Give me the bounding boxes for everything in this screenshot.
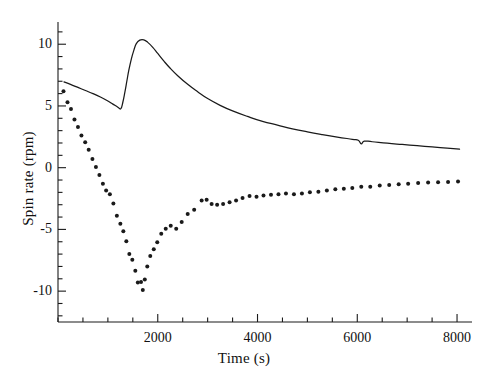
data-point xyxy=(359,185,363,189)
x-axis-title: Time (s) xyxy=(0,350,488,367)
data-point xyxy=(436,180,440,184)
y-tick-label: 0 xyxy=(12,160,52,176)
data-point xyxy=(127,252,131,256)
data-point xyxy=(387,183,391,187)
data-point xyxy=(130,258,134,262)
data-point xyxy=(72,118,76,122)
data-point xyxy=(133,269,137,273)
data-point xyxy=(101,182,105,186)
data-point xyxy=(143,277,147,281)
data-point xyxy=(155,240,159,244)
data-point xyxy=(308,190,312,194)
data-point xyxy=(152,247,156,251)
data-point xyxy=(104,189,108,193)
data-point xyxy=(456,180,460,184)
data-point xyxy=(90,157,94,161)
x-tick-label: 6000 xyxy=(343,330,371,346)
data-point xyxy=(397,182,401,186)
y-tick-label: -5 xyxy=(12,221,52,237)
y-tick-label: -10 xyxy=(12,283,52,299)
data-point xyxy=(65,100,69,104)
data-point xyxy=(426,180,430,184)
data-point xyxy=(276,192,280,196)
data-point xyxy=(115,214,119,218)
data-point xyxy=(378,184,382,188)
data-point xyxy=(406,182,410,186)
data-point xyxy=(118,222,122,226)
data-point xyxy=(83,140,87,144)
data-point xyxy=(262,193,266,197)
data-point xyxy=(300,192,304,196)
data-point xyxy=(234,198,238,202)
data-point xyxy=(368,185,372,189)
y-tick-label: 5 xyxy=(12,98,52,114)
y-tick-label: 10 xyxy=(12,36,52,52)
data-point xyxy=(108,192,112,196)
x-tick-label: 2000 xyxy=(144,330,172,346)
data-point xyxy=(145,264,149,268)
data-point xyxy=(148,254,152,258)
data-point xyxy=(94,165,98,169)
data-point xyxy=(200,198,204,202)
data-point xyxy=(316,190,320,194)
data-point xyxy=(69,107,73,111)
data-point xyxy=(241,196,245,200)
data-point xyxy=(416,181,420,185)
data-point xyxy=(174,227,178,231)
spin-rate-figure: Time (s) Spin rate (rpm) 200040006000800… xyxy=(0,0,488,389)
data-point xyxy=(205,198,209,202)
data-point xyxy=(139,280,143,284)
data-point xyxy=(292,192,296,196)
data-point xyxy=(180,220,184,224)
data-point xyxy=(159,232,163,236)
x-tick-label: 4000 xyxy=(244,330,272,346)
data-point xyxy=(210,202,214,206)
data-point xyxy=(61,89,65,93)
data-point xyxy=(333,187,337,191)
data-point xyxy=(111,201,115,205)
data-point xyxy=(215,203,219,207)
data-point xyxy=(446,180,450,184)
x-tick-label: 8000 xyxy=(443,330,471,346)
data-point xyxy=(228,200,232,204)
data-point xyxy=(350,186,354,190)
data-point xyxy=(141,288,145,292)
data-point xyxy=(87,148,91,152)
series-solid-curve xyxy=(64,40,460,150)
data-point xyxy=(124,239,128,243)
data-point xyxy=(221,202,225,206)
data-point xyxy=(342,187,346,191)
data-point xyxy=(121,229,125,233)
data-point xyxy=(255,195,259,199)
data-point xyxy=(169,224,173,228)
data-point xyxy=(325,189,329,193)
data-point xyxy=(79,134,83,138)
data-point xyxy=(186,212,190,216)
data-point xyxy=(248,194,252,198)
data-point xyxy=(284,192,288,196)
data-point xyxy=(97,173,101,177)
data-point xyxy=(192,208,196,212)
data-point xyxy=(76,125,80,129)
data-point xyxy=(164,227,168,231)
data-point xyxy=(269,193,273,197)
